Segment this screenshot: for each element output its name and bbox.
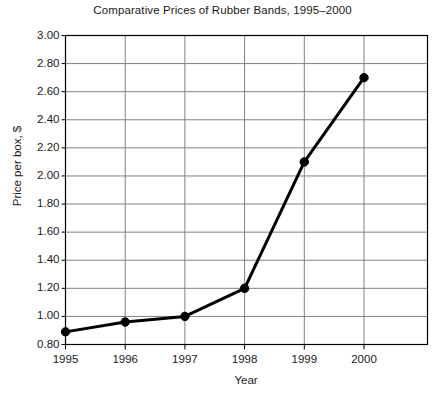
data-markers (61, 73, 368, 336)
y-tick-label: 2.60 (14, 85, 60, 97)
y-tick-label: 2.00 (14, 169, 60, 181)
y-tick-label: 0.80 (14, 338, 60, 350)
y-tick-label: 1.20 (14, 281, 60, 293)
x-tick-label: 1998 (215, 353, 275, 365)
plot-area (0, 0, 445, 400)
y-tick-label: 3.00 (14, 29, 60, 41)
data-line (66, 78, 365, 332)
y-tick-label: 1.60 (14, 225, 60, 237)
x-tick-label: 1995 (36, 353, 96, 365)
x-tick-label: 2000 (334, 353, 394, 365)
x-tick-label: 1997 (155, 353, 215, 365)
y-tick-label: 2.40 (14, 113, 60, 125)
x-tick-label: 1996 (95, 353, 155, 365)
horizontal-gridlines (66, 64, 428, 317)
vertical-gridlines (125, 36, 364, 345)
y-tick-label: 2.80 (14, 57, 60, 69)
y-tick-label: 1.40 (14, 253, 60, 265)
y-tick-label: 2.20 (14, 141, 60, 153)
x-tick-label: 1999 (274, 353, 334, 365)
y-tick-label: 1.00 (14, 309, 60, 321)
axis-frame (66, 36, 428, 345)
chart-figure: Comparative Prices of Rubber Bands, 1995… (0, 0, 445, 400)
y-tick-label: 1.80 (14, 197, 60, 209)
